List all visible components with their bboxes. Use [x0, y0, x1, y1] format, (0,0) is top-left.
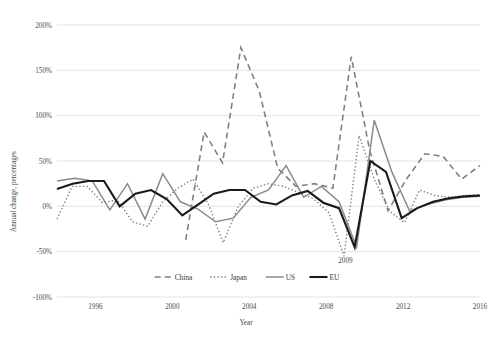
annotation-label: 2009 [338, 257, 353, 265]
legend-label: US [286, 273, 295, 282]
y-tick-label: 200% [35, 22, 52, 30]
x-tick-label: 2004 [242, 303, 257, 311]
x-tick-label: 1996 [88, 303, 103, 311]
x-tick-label: 2012 [396, 303, 411, 311]
y-tick-label: 100% [35, 112, 52, 120]
y-tick-label: -100% [33, 294, 52, 302]
y-tick-label: 50% [39, 158, 52, 166]
x-axis-title: Year [239, 319, 253, 327]
chart-svg: 200%150%100%50%0%-50%-100% 1996200020042… [0, 0, 493, 342]
legend-label: Japan [230, 273, 247, 282]
y-tick-label: -50% [36, 248, 52, 256]
x-tick-label: 2000 [165, 303, 180, 311]
x-tick-label: 2008 [319, 303, 334, 311]
legend-label: China [175, 273, 193, 282]
y-tick-label: 0% [42, 203, 52, 211]
chart-background [0, 0, 493, 342]
line-chart: 200%150%100%50%0%-50%-100% 1996200020042… [0, 0, 493, 342]
legend-label: EU [330, 273, 341, 282]
chart-annotations: 2009 [338, 257, 353, 265]
y-tick-label: 150% [35, 67, 52, 75]
y-axis-title: Annual change, percentages [10, 151, 18, 232]
x-tick-label: 2016 [473, 303, 488, 311]
